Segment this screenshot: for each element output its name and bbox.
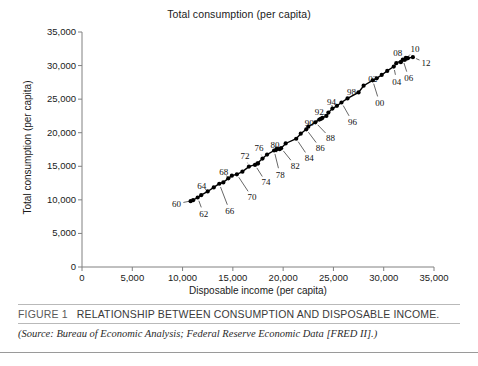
year-label: 08	[393, 48, 402, 58]
year-label: 04	[392, 77, 401, 87]
year-label: 92	[315, 107, 324, 117]
series-data-points	[189, 55, 415, 203]
figure-number: FIGURE 1	[18, 308, 68, 320]
year-label: 02	[368, 74, 377, 84]
year-label: 62	[199, 209, 208, 219]
year-label: 10	[410, 44, 419, 54]
year-label: 06	[404, 73, 413, 83]
year-label: 68	[219, 167, 228, 177]
figure-caption: FIGURE 1 RELATIONSHIP BETWEEN CONSUMPTIO…	[18, 304, 460, 345]
year-label: 82	[291, 161, 300, 171]
year-label: 12	[421, 58, 430, 68]
chart-plot-area: Total consumption (per capita) Total con…	[0, 0, 478, 300]
scatter-plot-svg	[0, 0, 478, 300]
year-label: 78	[276, 170, 285, 180]
year-label: 94	[327, 97, 336, 107]
page-bottom-rule	[0, 352, 478, 353]
figure-container: Total consumption (per capita) Total con…	[0, 0, 478, 366]
year-label: 66	[225, 206, 234, 216]
year-label: 74	[262, 177, 271, 187]
year-label: 88	[326, 133, 335, 143]
year-label: 96	[348, 117, 357, 127]
caption-headline: FIGURE 1 RELATIONSHIP BETWEEN CONSUMPTIO…	[18, 305, 460, 323]
caption-title: RELATIONSHIP BETWEEN CONSUMPTION AND DIS…	[77, 308, 440, 320]
year-label: 64	[197, 181, 206, 191]
series-connecting-line	[191, 57, 413, 201]
year-label: 60	[172, 199, 181, 209]
year-label: 76	[255, 143, 264, 153]
year-label: 90	[305, 118, 314, 128]
year-label: 00	[375, 98, 384, 108]
year-label: 98	[347, 87, 356, 97]
year-label: 70	[247, 192, 256, 202]
year-label: 72	[240, 151, 249, 161]
year-label: 84	[305, 153, 314, 163]
year-label: 80	[271, 140, 280, 150]
caption-source: (Source: Bureau of Economic Analysis; Fe…	[18, 324, 460, 345]
year-label: 86	[316, 143, 325, 153]
